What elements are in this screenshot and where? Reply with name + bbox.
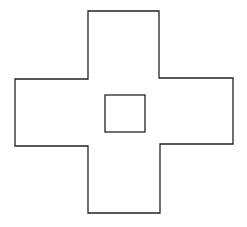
cross-diagram bbox=[0, 0, 247, 227]
cross-outline bbox=[15, 11, 233, 213]
inner-square bbox=[105, 95, 145, 132]
